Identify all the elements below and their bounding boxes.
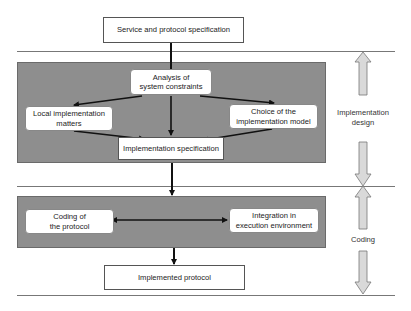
design-up-arrow-icon <box>355 52 371 95</box>
service-protocol-spec-label: Service and protocol specification <box>117 25 230 35</box>
service-protocol-spec-box: Service and protocol specification <box>103 17 244 43</box>
phase-design-line2: design <box>325 118 401 128</box>
phase-design-line1: Implementation <box>325 108 401 118</box>
analysis-label-line1: Analysis of <box>140 73 203 83</box>
coding-up-arrow-icon <box>355 186 371 229</box>
design-down-arrow-icon <box>355 142 371 186</box>
choice-label-line1: Choice of the <box>236 107 310 117</box>
choice-label-line2: implementation model <box>236 117 310 127</box>
implemented-protocol-box: Implemented protocol <box>104 265 245 290</box>
local-label-line2: matters <box>33 119 105 129</box>
analysis-box: Analysis of system constraints <box>130 69 212 95</box>
implementation-spec-box: Implementation specification <box>118 137 224 160</box>
choice-model-box: Choice of the implementation model <box>229 104 318 129</box>
coding-label-line1: Coding of <box>50 212 90 222</box>
analysis-label-line2: system constraints <box>140 82 203 92</box>
local-label-line1: Local implementation <box>33 109 105 119</box>
coding-protocol-box: Coding of the protocol <box>25 209 114 234</box>
coding-down-arrow-icon <box>355 251 371 294</box>
phase-label-coding: Coding <box>325 235 401 245</box>
local-implementation-box: Local implementation matters <box>25 106 113 131</box>
integration-box: Integration in execution environment <box>229 208 319 233</box>
integration-label-line2: execution environment <box>236 221 312 231</box>
phase-label-implementation-design: Implementation design <box>325 108 401 128</box>
implementation-spec-label: Implementation specification <box>123 144 219 154</box>
implemented-protocol-label: Implemented protocol <box>138 273 211 283</box>
coding-label-line2: the protocol <box>50 222 90 232</box>
phase-coding-text: Coding <box>325 235 401 245</box>
integration-label-line1: Integration in <box>236 211 312 221</box>
